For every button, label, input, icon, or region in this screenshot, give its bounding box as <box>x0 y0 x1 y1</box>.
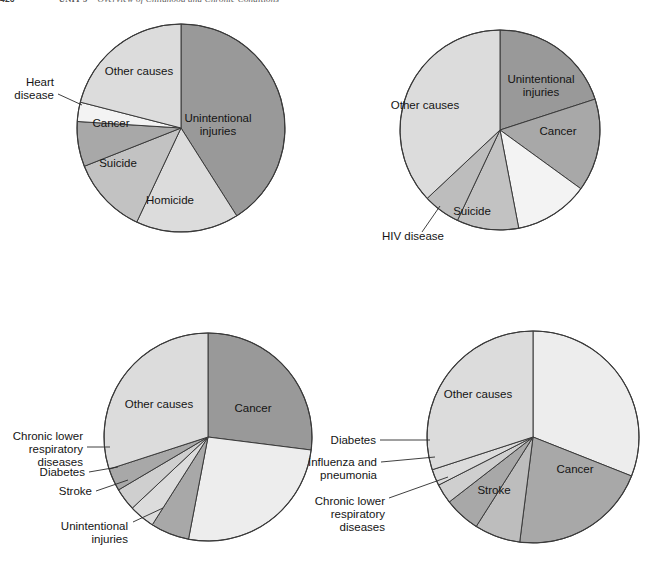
slice-label-line: Unintentional <box>507 73 574 85</box>
leader-line <box>422 206 440 232</box>
slice-label-line: Diabetes <box>331 434 377 446</box>
slice-label-line: Chronic lower <box>315 495 385 507</box>
slice-label: Stroke <box>59 485 92 497</box>
leader-line <box>58 94 82 105</box>
slice-label: Other causes <box>125 398 194 410</box>
chart-bottom-left: CancerHeart diseaseUnintentional injurie… <box>13 333 312 545</box>
slice-label-line: pneumonia <box>320 469 378 481</box>
slice-label-line: Unintentional <box>184 112 251 124</box>
slice-label-line: Other causes <box>391 99 460 111</box>
slice-label-line: HIV disease <box>382 230 444 242</box>
slice-label: Suicide <box>453 205 491 217</box>
slice-label-line: Cancer <box>556 463 593 475</box>
slice-label-line: Other causes <box>125 398 194 410</box>
slice-label-line: respiratory <box>331 508 386 520</box>
pie-slice[interactable]: Heart disease <box>189 437 312 541</box>
slice-label: Heartdisease <box>14 76 54 101</box>
slice-label: Diabetes <box>331 434 377 446</box>
slice-label: Cancer <box>234 402 271 414</box>
slice-label: Influenza andpneumonia <box>308 456 378 481</box>
slice-label: Other causes <box>391 99 460 111</box>
slice-label-line: Other causes <box>105 65 174 77</box>
slice-label-line: Influenza and <box>308 456 377 468</box>
slice-label: Suicide <box>99 157 137 169</box>
chart-bottom-right: Heart diseaseCancerStrokeChronic lower r… <box>308 331 639 543</box>
pie-slice[interactable]: Cancer <box>208 333 312 450</box>
slice-label-line: Cancer <box>92 117 129 129</box>
slice-label-line: Heart <box>26 76 55 88</box>
leader-line <box>381 457 435 462</box>
slice-label-line: injuries <box>523 86 560 98</box>
slice-label-line: Stroke <box>477 484 510 496</box>
slice-label: Cancer <box>92 117 129 129</box>
slice-label: Chronic lowerrespiratorydiseases <box>13 430 84 468</box>
slice-label-line: Cancer <box>234 402 271 414</box>
slice-label: Chronic lowerrespiratorydiseases <box>315 495 386 533</box>
slice-label-line: Cancer <box>539 125 576 137</box>
slice-label: Other causes <box>444 388 513 400</box>
slice-label: Homicide <box>146 194 194 206</box>
slice-label-line: injuries <box>92 533 129 545</box>
charts-svg: Unintentional injuriesHomicideSuicideCan… <box>0 0 656 563</box>
slice-label-line: Suicide <box>99 157 137 169</box>
slice-label-line: Homicide <box>146 194 194 206</box>
slice-label: Unintentionalinjuries <box>61 520 128 545</box>
slice-label-line: injuries <box>200 125 237 137</box>
leader-line <box>389 477 448 498</box>
chart-top-left: Unintentional injuriesHomicideSuicideCan… <box>14 24 285 232</box>
slice-label: Cancer <box>539 125 576 137</box>
figure-page: 426UNIT 5Overview of Childhood and Chron… <box>0 0 656 563</box>
slice-label: Other causes <box>105 65 174 77</box>
slice-label-line: Chronic lower <box>13 430 83 442</box>
chart-top-right: Unintentional injuriesCancerHeart diseas… <box>382 30 600 242</box>
slice-label-line: Unintentional <box>61 520 128 532</box>
slice-label-line: Other causes <box>444 388 513 400</box>
slice-label-line: disease <box>14 89 54 101</box>
slice-label: Stroke <box>477 484 510 496</box>
slice-label-line: respiratory <box>29 443 84 455</box>
slice-label-line: Stroke <box>59 485 92 497</box>
pie-chart-group: Unintentional injuriesHomicideSuicideCan… <box>0 0 656 563</box>
slice-label: Cancer <box>556 463 593 475</box>
slice-label-line: Suicide <box>453 205 491 217</box>
slice-label-line: diseases <box>340 521 386 533</box>
slice-label: HIV disease <box>382 230 444 242</box>
slice-label-line: diseases <box>38 456 84 468</box>
